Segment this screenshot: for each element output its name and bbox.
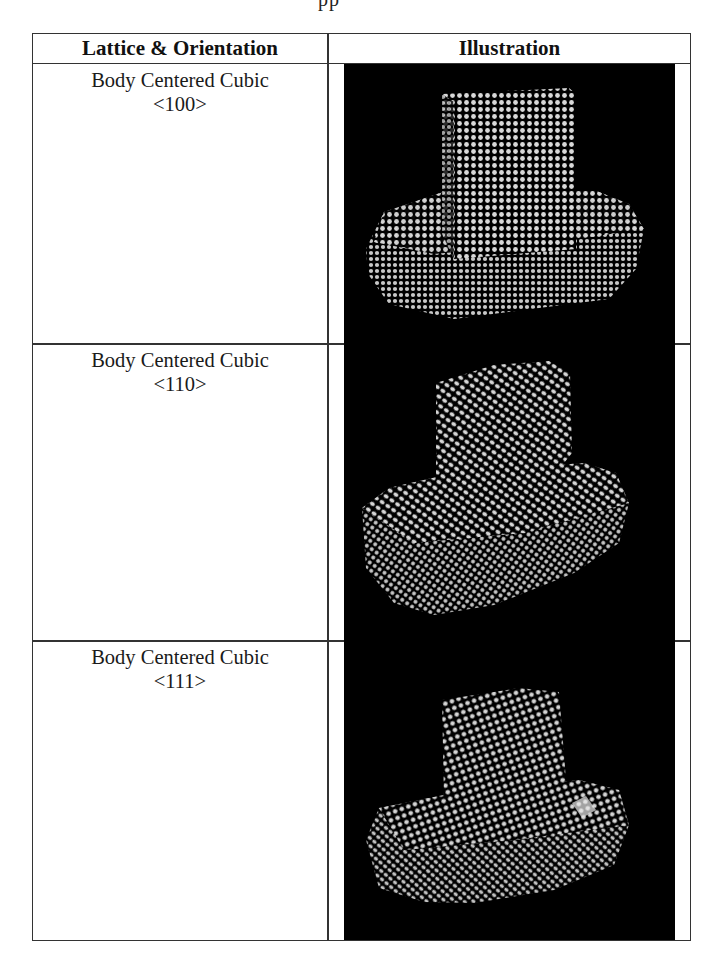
- header-lattice-orientation: Lattice & Orientation: [33, 34, 327, 63]
- bcc-100-illustration: [344, 64, 675, 343]
- orientation: <111>: [33, 669, 327, 693]
- table-row-3-label: Body Centered Cubic <111>: [33, 643, 327, 693]
- orientation: <110>: [33, 372, 327, 396]
- column-divider: [327, 34, 329, 940]
- lattice-orientation-table: Lattice & Orientation Illustration Body …: [32, 33, 691, 941]
- lattice-name: Body Centered Cubic: [33, 68, 327, 92]
- orientation: <100>: [33, 92, 327, 116]
- lattice-name: Body Centered Cubic: [33, 645, 327, 669]
- table-row-1-label: Body Centered Cubic <100>: [33, 66, 327, 116]
- illustration-panel: [344, 64, 675, 940]
- lattice-name: Body Centered Cubic: [33, 348, 327, 372]
- header-illustration: Illustration: [329, 34, 690, 63]
- bcc-110-illustration: [344, 343, 675, 640]
- table-header-row: Lattice & Orientation Illustration: [33, 34, 690, 64]
- table-row-2-label: Body Centered Cubic <110>: [33, 346, 327, 396]
- bcc-111-illustration: [344, 640, 675, 940]
- document-page: pp Lattice & Orientation Illustration Bo…: [0, 0, 718, 970]
- page-header-fragment: pp: [318, 0, 340, 11]
